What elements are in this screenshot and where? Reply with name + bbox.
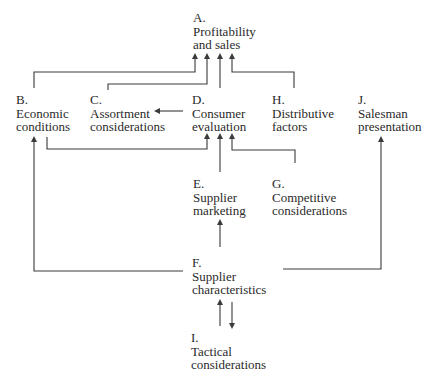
node-c-letter: C. <box>90 93 165 107</box>
node-f-line2: characteristics <box>192 283 266 297</box>
node-g-letter: G. <box>272 177 347 191</box>
node-j-letter: J. <box>358 93 422 107</box>
node-e-letter: E. <box>193 177 246 191</box>
edge-h-to-a <box>232 56 294 88</box>
node-j-line2: presentation <box>358 120 422 134</box>
node-f-supplier-characteristics: F. Supplier characteristics <box>192 256 266 297</box>
node-f-letter: F. <box>192 256 266 270</box>
node-a-profitability-and-sales: A. Profitability and sales <box>193 11 256 52</box>
node-b-letter: B. <box>16 93 70 107</box>
node-b-economic-conditions: B. Economic conditions <box>16 93 70 134</box>
node-d-line2: evaluation <box>192 120 246 134</box>
node-i-tactical-considerations: I. Tactical considerations <box>191 331 266 372</box>
node-j-salesman-presentation: J. Salesman presentation <box>358 93 422 134</box>
node-b-line1: Economic <box>16 107 70 121</box>
node-d-line1: Consumer <box>192 107 246 121</box>
node-g-line1: Competitive <box>272 191 347 205</box>
node-d-consumer-evaluation: D. Consumer evaluation <box>192 93 246 134</box>
node-h-line2: factors <box>272 120 334 134</box>
edge-c-to-a <box>108 56 207 90</box>
edge-f-to-b <box>34 139 183 271</box>
node-a-line2: and sales <box>193 38 256 52</box>
node-e-supplier-marketing: E. Supplier marketing <box>193 177 246 218</box>
edge-b-to-a <box>34 56 195 88</box>
node-i-line2: considerations <box>191 358 266 372</box>
edge-g-to-d <box>232 136 295 163</box>
node-g-line2: considerations <box>272 204 347 218</box>
node-i-letter: I. <box>191 331 266 345</box>
node-d-letter: D. <box>192 93 246 107</box>
node-c-line2: considerations <box>90 120 165 134</box>
edge-b-to-d <box>47 136 207 149</box>
node-j-line1: Salesman <box>358 107 422 121</box>
node-i-line1: Tactical <box>191 345 266 359</box>
node-e-line2: marketing <box>193 204 246 218</box>
node-e-line1: Supplier <box>193 191 246 205</box>
node-c-assortment-considerations: C. Assortment considerations <box>90 93 165 134</box>
node-h-line1: Distributive <box>272 107 334 121</box>
node-f-line1: Supplier <box>192 270 266 284</box>
node-h-distributive-factors: H. Distributive factors <box>272 93 334 134</box>
node-g-competitive-considerations: G. Competitive considerations <box>272 177 347 218</box>
node-a-letter: A. <box>193 11 256 25</box>
node-b-line2: conditions <box>16 120 70 134</box>
node-a-line1: Profitability <box>193 25 256 39</box>
node-h-letter: H. <box>272 93 334 107</box>
node-c-line1: Assortment <box>90 107 165 121</box>
